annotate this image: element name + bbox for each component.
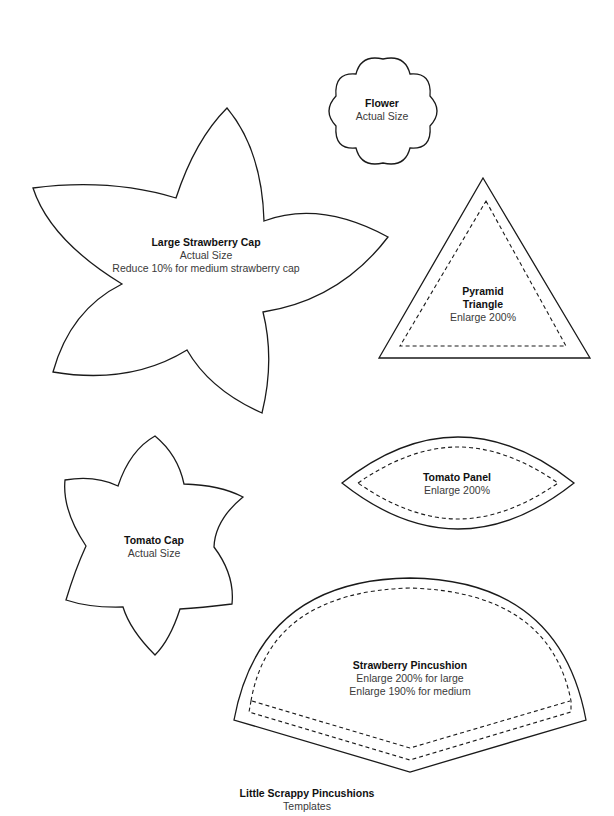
- tomato-panel-note: Enlarge 200%: [423, 484, 491, 497]
- large-strawberry-cap-note-2: Reduce 10% for medium strawberry cap: [112, 262, 299, 275]
- strawberry-pincushion-note-1: Enlarge 200% for large: [349, 672, 470, 685]
- tomato-cap-name: Tomato Cap: [124, 534, 184, 547]
- tomato-cap-label: Tomato Cap Actual Size: [124, 534, 184, 560]
- strawberry-pincushion-note-2: Enlarge 190% for medium: [349, 685, 470, 698]
- pyramid-triangle-label: Pyramid Triangle Enlarge 200%: [450, 285, 516, 324]
- pyramid-triangle-name-line-2: Triangle: [450, 298, 516, 311]
- strawberry-pincushion-label: Strawberry Pincushion Enlarge 200% for l…: [349, 659, 470, 698]
- flower-name: Flower: [356, 97, 409, 110]
- strawberry-pincushion-name: Strawberry Pincushion: [349, 659, 470, 672]
- document-title: Little Scrappy Pincushions: [240, 787, 375, 800]
- document-subtitle: Templates: [240, 800, 375, 813]
- tomato-panel-name: Tomato Panel: [423, 471, 491, 484]
- flower-note: Actual Size: [356, 110, 409, 123]
- pyramid-triangle-name-line-1: Pyramid: [450, 285, 516, 298]
- large-strawberry-cap-note-1: Actual Size: [112, 249, 299, 262]
- document-footer: Little Scrappy Pincushions Templates: [240, 787, 375, 813]
- tomato-cap-note: Actual Size: [124, 547, 184, 560]
- pyramid-triangle-note: Enlarge 200%: [450, 311, 516, 324]
- flower-label: Flower Actual Size: [356, 97, 409, 123]
- large-strawberry-cap-name: Large Strawberry Cap: [112, 236, 299, 249]
- large-strawberry-cap-label: Large Strawberry Cap Actual Size Reduce …: [112, 236, 299, 275]
- tomato-panel-label: Tomato Panel Enlarge 200%: [423, 471, 491, 497]
- template-sheet: [0, 0, 614, 816]
